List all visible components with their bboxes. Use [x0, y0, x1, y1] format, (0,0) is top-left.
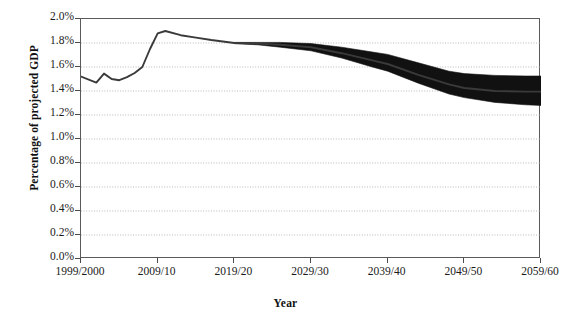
y-tick-mark	[75, 66, 80, 67]
y-tick-label: 0.0%	[8, 251, 74, 263]
y-tick-label: 0.8%	[8, 155, 74, 167]
x-tick-mark	[310, 258, 311, 263]
chart-figure: Percentage of projected GDP 0.0%0.2%0.4%…	[0, 0, 571, 321]
y-tick-mark	[75, 42, 80, 43]
y-tick-mark	[75, 234, 80, 235]
y-tick-mark	[75, 138, 80, 139]
y-tick-mark	[75, 90, 80, 91]
y-tick-mark	[75, 162, 80, 163]
projection-fan-band	[234, 42, 541, 105]
y-tick-label: 1.8%	[8, 35, 74, 47]
x-tick-mark	[80, 258, 81, 263]
y-tick-mark	[75, 210, 80, 211]
plot-area	[80, 18, 540, 258]
chart-canvas	[81, 19, 541, 259]
x-tick-mark	[387, 258, 388, 263]
x-tick-mark	[463, 258, 464, 263]
x-axis-title: Year	[0, 297, 571, 309]
y-tick-label: 1.2%	[8, 107, 74, 119]
y-tick-label: 0.4%	[8, 203, 74, 215]
y-tick-mark	[75, 186, 80, 187]
x-tick-mark	[233, 258, 234, 263]
y-tick-mark	[75, 114, 80, 115]
x-tick-mark	[540, 258, 541, 263]
x-tick-mark	[157, 258, 158, 263]
y-tick-label: 0.6%	[8, 179, 74, 191]
y-tick-label: 1.6%	[8, 59, 74, 71]
y-tick-mark	[75, 18, 80, 19]
y-tick-label: 1.0%	[8, 131, 74, 143]
x-tick-label: 2059/60	[494, 265, 571, 277]
y-tick-label: 0.2%	[8, 227, 74, 239]
y-tick-label: 1.4%	[8, 83, 74, 95]
y-tick-label: 2.0%	[8, 11, 74, 23]
